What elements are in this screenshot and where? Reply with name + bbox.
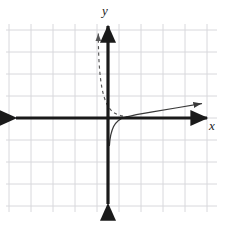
axes [16,26,207,204]
y-axis-label: y [100,3,108,18]
logarithmic-curve [109,104,201,146]
graph-figure: x y [0,0,225,229]
coordinate-plane: x y [0,0,225,229]
x-axis-label: x [208,118,215,133]
inverse-exponential-curve-main [98,34,129,118]
